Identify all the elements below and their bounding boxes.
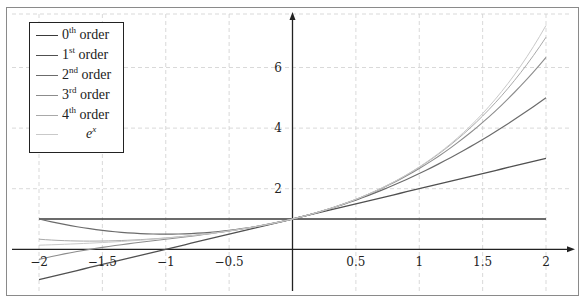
legend: 0th order 1st order 2nd order 3rd order … <box>29 22 124 153</box>
legend-swatch <box>36 95 58 96</box>
legend-item-exp: ex <box>30 125 123 145</box>
x-tick-label: 0.5 <box>346 255 365 269</box>
legend-swatch <box>36 35 58 36</box>
x-axis-arrow-icon <box>567 246 575 252</box>
legend-label: 0th order <box>62 27 109 43</box>
legend-swatch <box>36 115 58 116</box>
legend-label: 4th order <box>62 107 109 123</box>
y-tick-label: 2 <box>274 182 282 196</box>
legend-swatch <box>36 75 58 76</box>
x-tick-label: −2 <box>30 255 48 269</box>
x-tick-label: −1 <box>157 255 175 269</box>
y-tick-label: 6 <box>274 61 282 75</box>
legend-label: 2nd order <box>62 67 111 83</box>
x-tick-label: −1.5 <box>88 255 117 269</box>
legend-label: 3rd order <box>62 87 110 103</box>
y-axis-arrow-icon <box>290 12 296 20</box>
y-tick-label: 4 <box>274 121 282 135</box>
legend-item-2nd-order: 2nd order <box>30 66 123 86</box>
legend-swatch <box>36 55 58 56</box>
legend-item-3rd-order: 3rd order <box>30 86 123 106</box>
legend-item-4th-order: 4th order <box>30 106 123 126</box>
legend-label: 1st order <box>62 47 108 63</box>
x-tick-label: 1.5 <box>473 255 492 269</box>
legend-swatch <box>36 134 58 135</box>
legend-item-0th-order: 0th order <box>30 26 123 46</box>
x-tick-label: 2 <box>542 255 550 269</box>
chart-container: −2−1.5−1−0.50.511.52246 0th order 1st or… <box>0 0 584 301</box>
x-tick-label: 1 <box>415 255 423 269</box>
x-tick-label: −0.5 <box>215 255 244 269</box>
legend-item-1st-order: 1st order <box>30 46 123 66</box>
